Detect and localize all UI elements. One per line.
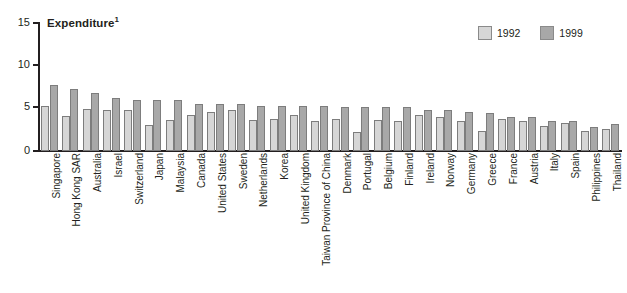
bar-1999	[278, 106, 286, 151]
bar-group	[353, 22, 372, 151]
bar-1999	[465, 112, 473, 151]
bar-group	[187, 22, 206, 151]
bar-1999	[528, 117, 536, 150]
bar-1999	[50, 85, 58, 151]
bar-1992	[478, 131, 486, 151]
bar-group	[207, 22, 226, 151]
bar-1992	[207, 112, 215, 151]
x-axis-label: Singapore	[52, 153, 62, 199]
bar-1999	[70, 89, 78, 151]
x-axis-label: Ireland	[426, 153, 436, 184]
bar-group	[374, 22, 393, 151]
bar-group	[581, 22, 600, 151]
bar-group	[394, 22, 413, 151]
bar-1999	[590, 127, 598, 151]
x-axis-label: Canada	[197, 153, 207, 188]
bar-group	[436, 22, 455, 151]
bar-1992	[561, 123, 569, 150]
bar-1992	[394, 121, 402, 151]
bar-group	[457, 22, 476, 151]
bar-group	[145, 22, 164, 151]
bar-1992	[228, 110, 236, 150]
bar-1992	[166, 120, 174, 151]
bar-1992	[83, 109, 91, 150]
bar-group	[124, 22, 143, 151]
bar-1999	[257, 106, 265, 151]
bar-1999	[424, 110, 432, 150]
bar-1999	[195, 104, 203, 150]
bar-group	[41, 22, 60, 151]
bar-group	[228, 22, 247, 151]
bar-1999	[341, 107, 349, 151]
bar-1992	[290, 115, 298, 150]
bar-1999	[382, 107, 390, 151]
x-axis-label: Philippines	[592, 153, 602, 201]
x-axis-label: Greece	[488, 153, 498, 186]
bar-group	[519, 22, 538, 151]
x-axis-label: Germany	[467, 153, 477, 194]
bar-1992	[457, 121, 465, 151]
x-axis-label: Japan	[155, 153, 165, 180]
bar-1999	[299, 106, 307, 151]
bar-1999	[153, 100, 161, 151]
bar-1992	[374, 120, 382, 151]
x-axis-label: Hong Kong SAR	[72, 153, 82, 226]
x-axis-label: Norway	[446, 153, 456, 187]
bar-group	[602, 22, 621, 151]
bar-1999	[112, 98, 120, 150]
bar-1999	[403, 107, 411, 151]
bar-1999	[569, 121, 577, 151]
x-axis-label: Israel	[114, 153, 124, 177]
x-axis-label: Thailand	[613, 153, 623, 191]
x-axis-category-labels: SingaporeHong Kong SARAustraliaIsraelSwi…	[40, 153, 622, 273]
bar-1992	[519, 121, 527, 150]
bar-1992	[145, 125, 153, 151]
y-axis-labels: 15 10 5 0	[0, 0, 30, 293]
x-axis-label: Belgium	[384, 153, 394, 189]
bar-group	[249, 22, 268, 151]
y-tick-label-10: 10	[4, 59, 30, 70]
bar-1992	[332, 119, 340, 151]
x-axis-label: Korea	[280, 153, 290, 180]
y-tick-label-0: 0	[4, 145, 30, 156]
bar-1992	[249, 120, 257, 151]
bar-group	[311, 22, 330, 151]
bar-1999	[444, 110, 452, 150]
bar-group	[83, 22, 102, 151]
bar-1999	[133, 100, 141, 151]
bar-group	[478, 22, 497, 151]
chart-root: 15 10 5 0 Expenditure1 1992 1999 Singapo…	[0, 0, 627, 293]
bar-1999	[216, 104, 224, 150]
y-tick-label-15: 15	[4, 17, 30, 28]
x-axis-label: Switzerland	[135, 153, 145, 205]
bar-group	[103, 22, 122, 151]
bar-group	[561, 22, 580, 151]
x-axis-label: Australia	[93, 153, 103, 192]
bar-1992	[124, 110, 132, 150]
bar-1999	[91, 93, 99, 150]
bar-1992	[602, 129, 610, 150]
bar-1999	[611, 124, 619, 151]
bar-1992	[311, 121, 319, 150]
bar-1999	[507, 117, 515, 150]
x-axis-label: Finland	[405, 153, 415, 186]
bar-1999	[320, 106, 328, 151]
x-axis-label: Italy	[550, 153, 560, 171]
bar-1999	[174, 100, 182, 151]
bar-group	[415, 22, 434, 151]
bar-group	[290, 22, 309, 151]
bar-1992	[103, 110, 111, 150]
bar-group	[166, 22, 185, 151]
bar-group	[62, 22, 81, 151]
x-axis-label: Denmark	[343, 153, 353, 194]
x-axis-label: Spain	[571, 153, 581, 179]
bar-1992	[41, 106, 49, 151]
x-axis-label: Netherlands	[259, 153, 269, 207]
x-axis-label: Sweden	[239, 153, 249, 189]
bar-1992	[353, 132, 361, 151]
x-axis-label: France	[509, 153, 519, 184]
bar-1992	[415, 115, 423, 150]
bar-1999	[548, 121, 556, 151]
bar-group	[332, 22, 351, 151]
bar-1992	[540, 126, 548, 151]
